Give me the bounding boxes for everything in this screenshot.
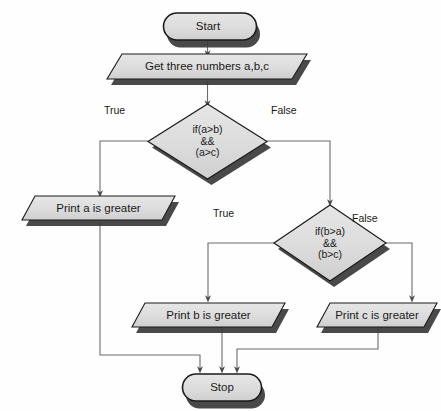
edge-decision1-false [267, 141, 330, 203]
edge-decision2-true [208, 243, 274, 299]
flowchart-canvas: Start Get three numbers a,b,c if(a>b) &&… [0, 0, 441, 411]
node-input [107, 54, 311, 85]
edge-decision2-false [386, 243, 412, 299]
node-decision1 [148, 104, 271, 185]
edge-printa-to-stop [100, 222, 200, 370]
edge-decision1-true [100, 141, 148, 194]
node-print-a [22, 196, 179, 226]
edge-printc-to-stop [237, 327, 378, 370]
node-print-b [132, 303, 289, 333]
node-stop [183, 374, 266, 409]
node-decision2 [274, 205, 390, 287]
node-print-c [317, 303, 441, 333]
flowchart-graphics [0, 0, 441, 411]
node-start [164, 13, 261, 48]
